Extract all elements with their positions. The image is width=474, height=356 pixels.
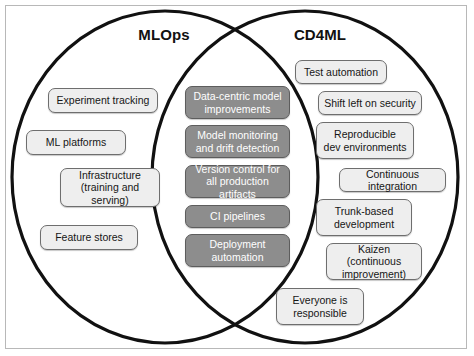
node-label-line1: Model monitoring [191, 129, 284, 142]
node-test-automation[interactable]: Test automation [295, 60, 387, 84]
node-continuous-integration[interactable]: Continuous integration [339, 168, 446, 192]
right-circle-title: CD4ML [270, 26, 370, 43]
node-label: Shift left on security [324, 97, 416, 110]
node-label-line2: improvement) [332, 268, 416, 281]
node-label-line2: responsible [282, 307, 358, 320]
node-shift-left-on-security[interactable]: Shift left on security [318, 91, 422, 115]
node-label-line2: all production artifacts [191, 175, 284, 200]
node-label-line1: Version control for [191, 163, 284, 176]
node-label-line1: Kaizen (continuous [332, 243, 416, 268]
node-label: Continuous integration [345, 168, 440, 193]
node-kaizen-continuous-improvement[interactable]: Kaizen (continuous improvement) [326, 243, 422, 280]
node-ci-pipelines[interactable]: CI pipelines [185, 205, 290, 228]
node-trunk-based-development[interactable]: Trunk-based development [316, 199, 412, 236]
node-ml-platforms[interactable]: ML platforms [26, 130, 126, 155]
node-label-line2: development [322, 218, 406, 231]
node-label-line1: Reproducible [322, 128, 408, 141]
node-reproducible-dev-environments[interactable]: Reproducible dev environments [316, 122, 414, 159]
node-label-line1: Data-centric model [191, 90, 284, 103]
node-version-control-production-artifacts[interactable]: Version control for all production artif… [185, 165, 290, 198]
node-label-line1: Trunk-based [322, 205, 406, 218]
node-label: Test automation [301, 66, 381, 79]
venn-diagram-figure: MLOps CD4ML Experiment tracking ML platf… [0, 0, 474, 356]
node-label-line2: automation [191, 251, 284, 264]
node-deployment-automation[interactable]: Deployment automation [185, 234, 290, 267]
node-label-line1: Deployment [191, 238, 284, 251]
node-label-line2: (training and serving) [66, 181, 154, 206]
left-circle-title: MLOps [114, 26, 214, 43]
node-label: Experiment tracking [54, 94, 152, 107]
node-everyone-is-responsible[interactable]: Everyone is responsible [276, 288, 364, 325]
node-label-line1: Everyone is [282, 294, 358, 307]
node-label-line2: improvements [191, 103, 284, 116]
node-infrastructure[interactable]: Infrastructure (training and serving) [60, 168, 160, 207]
node-label: ML platforms [32, 136, 120, 149]
node-data-centric-model-improvements[interactable]: Data-centric model improvements [185, 86, 290, 119]
node-experiment-tracking[interactable]: Experiment tracking [48, 88, 158, 113]
node-feature-stores[interactable]: Feature stores [40, 225, 138, 250]
node-model-monitoring-drift-detection[interactable]: Model monitoring and drift detection [185, 125, 290, 158]
node-label-line2: dev environments [322, 141, 408, 154]
node-label: Feature stores [46, 231, 132, 244]
node-label-line2: and drift detection [191, 142, 284, 155]
node-label: CI pipelines [191, 210, 284, 223]
node-label-line1: Infrastructure [66, 169, 154, 182]
